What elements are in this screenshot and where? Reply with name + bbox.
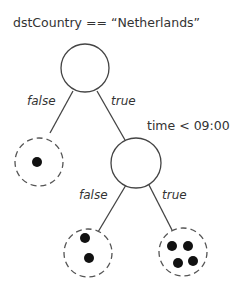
child-node bbox=[111, 138, 161, 188]
sample-dot bbox=[80, 233, 90, 243]
sample-dot bbox=[183, 241, 193, 251]
leaf-root-false bbox=[15, 138, 63, 186]
child-condition-label: time < 09:00 bbox=[147, 118, 230, 133]
decision-tree-diagram: dstCountry == “Netherlands” false true t… bbox=[0, 0, 230, 291]
child-false-label: false bbox=[79, 188, 108, 202]
child-true-label: true bbox=[162, 188, 187, 202]
root-condition-label: dstCountry == “Netherlands” bbox=[13, 15, 200, 30]
sample-dot bbox=[32, 157, 42, 167]
leaf-child-false bbox=[64, 229, 112, 277]
root-true-label: true bbox=[111, 94, 136, 108]
leaf-boundary bbox=[159, 228, 207, 276]
sample-dot bbox=[84, 253, 94, 263]
root-node bbox=[61, 44, 109, 92]
leaf-child-true bbox=[159, 228, 207, 276]
sample-dot bbox=[167, 241, 177, 251]
root-false-label: false bbox=[27, 94, 56, 108]
sample-dot bbox=[188, 256, 198, 266]
sample-dot bbox=[173, 258, 183, 268]
